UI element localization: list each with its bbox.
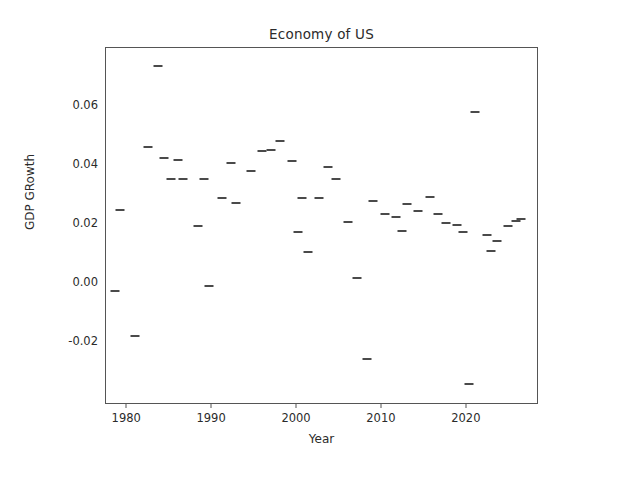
y-tick-label: 0.02 (72, 216, 98, 230)
data-point-marker (304, 251, 313, 253)
data-point-marker (487, 250, 496, 252)
data-point-marker (193, 225, 202, 227)
data-point-marker (343, 221, 352, 223)
x-tick-mark (380, 404, 381, 408)
x-axis-label: Year (105, 432, 538, 446)
data-point-marker (391, 216, 400, 218)
y-tick-label: 0.04 (72, 157, 98, 171)
data-point-marker (111, 290, 120, 292)
x-tick-mark (211, 404, 212, 408)
plot-area (106, 48, 537, 403)
data-point-marker (323, 166, 332, 168)
data-point-marker (218, 197, 227, 199)
x-tick-mark (126, 404, 127, 408)
data-point-marker (517, 218, 526, 220)
data-point-marker (200, 178, 209, 180)
y-tick-label: -0.02 (68, 334, 98, 348)
x-tick-label: 2020 (451, 411, 480, 425)
y-tick-label: 0.00 (72, 275, 98, 289)
data-point-marker (166, 178, 175, 180)
data-point-marker (413, 210, 422, 212)
x-tick-label: 2000 (281, 411, 310, 425)
data-point-marker (458, 231, 467, 233)
data-point-marker (276, 140, 285, 142)
data-point-marker (353, 277, 362, 279)
data-point-marker (293, 231, 302, 233)
data-point-marker (493, 240, 502, 242)
x-tick-label: 1990 (196, 411, 225, 425)
data-point-marker (231, 202, 240, 204)
data-point-marker (143, 146, 152, 148)
data-point-marker (368, 200, 377, 202)
data-point-marker (483, 234, 492, 236)
plot-frame (105, 47, 538, 404)
data-point-marker (398, 230, 407, 232)
x-tick-mark (296, 404, 297, 408)
data-point-marker (174, 159, 183, 161)
data-point-marker (287, 160, 296, 162)
x-tick-mark (465, 404, 466, 408)
data-point-marker (403, 203, 412, 205)
x-tick-label: 2010 (366, 411, 395, 425)
data-point-marker (247, 170, 256, 172)
data-point-marker (453, 224, 462, 226)
data-point-marker (298, 197, 307, 199)
data-point-marker (504, 225, 513, 227)
data-point-marker (363, 358, 372, 360)
x-tick-label: 1980 (112, 411, 141, 425)
data-point-marker (464, 383, 473, 385)
data-point-marker (179, 178, 188, 180)
data-point-marker (512, 220, 521, 222)
data-point-marker (130, 335, 139, 337)
data-point-marker (433, 213, 442, 215)
data-point-marker (381, 213, 390, 215)
data-point-marker (471, 111, 480, 113)
data-point-marker (204, 285, 213, 287)
data-point-marker (315, 197, 324, 199)
chart-figure: Economy of US GDP GRowth 0.060.040.020.0… (0, 0, 635, 483)
data-point-marker (266, 149, 275, 151)
chart-title: Economy of US (105, 26, 538, 42)
y-axis-label: GDP GRowth (23, 122, 37, 262)
data-point-marker (116, 209, 125, 211)
data-point-marker (332, 178, 341, 180)
y-tick-label: 0.06 (72, 98, 98, 112)
data-point-marker (442, 222, 451, 224)
data-point-marker (159, 157, 168, 159)
data-point-marker (226, 162, 235, 164)
data-point-marker (153, 65, 162, 67)
y-axis-tick-labels: 0.060.040.020.00-0.02 (40, 47, 98, 404)
data-point-marker (426, 196, 435, 198)
